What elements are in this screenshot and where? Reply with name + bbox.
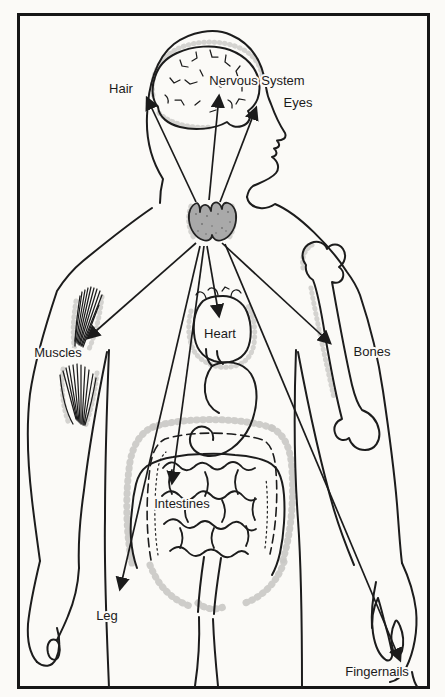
label-bones: Bones xyxy=(354,344,391,359)
anatomy-diagram: Hair Nervous System Eyes Muscles Heart B… xyxy=(0,0,445,697)
arrow-to-leg xyxy=(120,246,200,589)
colon-outline xyxy=(131,454,285,575)
intestines xyxy=(131,433,285,614)
body-outline xyxy=(28,31,418,688)
label-fingernails: Fingernails xyxy=(345,664,409,679)
right-torso xyxy=(295,350,302,688)
arrow-to-muscles xyxy=(88,243,196,338)
stomach xyxy=(190,349,257,456)
label-nervous-system: Nervous System xyxy=(209,73,304,88)
labels: Hair Nervous System Eyes Muscles Heart B… xyxy=(34,73,409,679)
label-hair: Hair xyxy=(109,81,134,96)
left-shoulder-arm xyxy=(28,208,152,561)
left-hand xyxy=(28,561,40,662)
arrows xyxy=(88,96,400,660)
heart xyxy=(194,287,251,363)
label-intestines: Intestines xyxy=(154,496,210,511)
right-shoulder-arm xyxy=(247,197,402,563)
label-muscles: Muscles xyxy=(34,345,82,360)
arrow-to-intestines xyxy=(172,246,204,483)
arrow-to-hair xyxy=(147,98,196,202)
inner-thighs xyxy=(195,617,199,686)
label-leg: Leg xyxy=(96,608,118,623)
label-heart: Heart xyxy=(204,326,236,341)
thyroid-target-organs-figure: Hair Nervous System Eyes Muscles Heart B… xyxy=(0,0,445,697)
label-eyes: Eyes xyxy=(284,95,313,110)
thyroid-gland xyxy=(189,202,236,240)
arrow-to-heart xyxy=(207,246,219,316)
left-torso xyxy=(105,350,109,688)
left-inner-arm xyxy=(79,352,107,568)
right-inner-arm xyxy=(298,352,354,565)
